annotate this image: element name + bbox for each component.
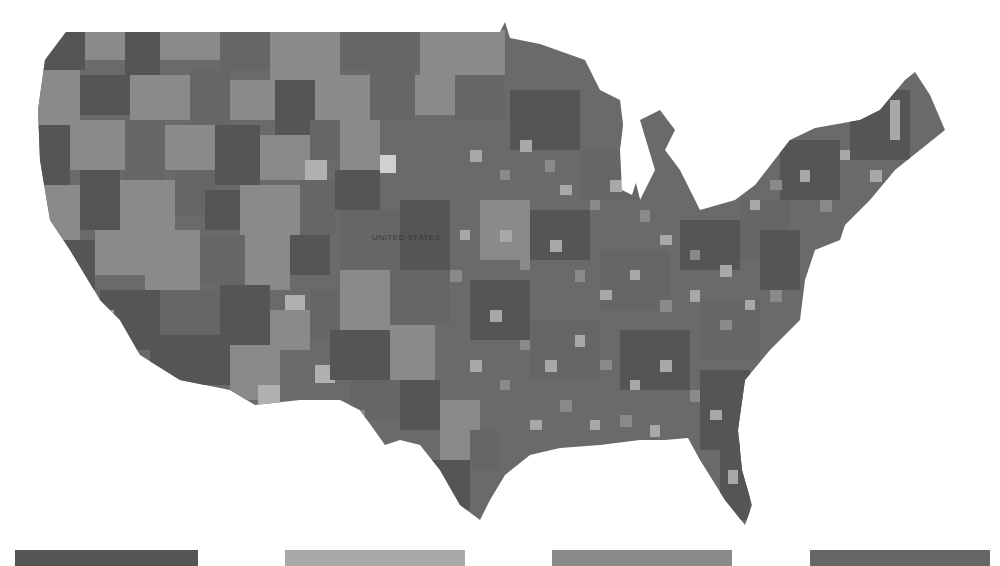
lake-michigan [620,105,642,195]
county-layer [0,0,1000,530]
legend-swatch-1 [15,550,198,566]
legend-swatch-4 [810,550,990,566]
map-canvas [0,0,1000,530]
us-county-map: UNITED STATES [0,0,1000,530]
legend-swatch-3 [552,550,732,566]
legend-swatch-2 [285,550,465,566]
legend [0,550,1000,566]
map-center-label: UNITED STATES [372,233,440,242]
